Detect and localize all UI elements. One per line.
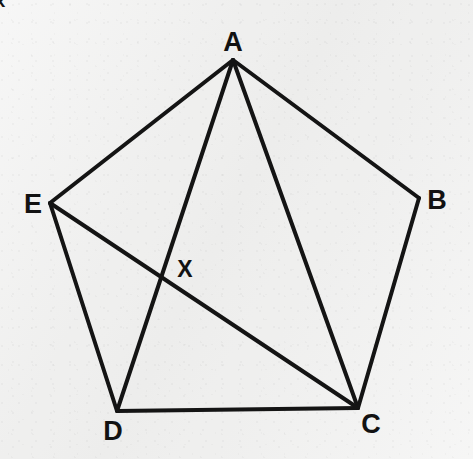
diagonal-EC <box>50 203 358 408</box>
geometry-figure: A B C D E X x <box>0 0 473 459</box>
segment-label-x: x <box>0 0 5 10</box>
vertex-label-D: D <box>103 418 123 445</box>
edge-DE <box>50 203 117 411</box>
diagonal-AC <box>233 60 358 408</box>
vertex-label-E: E <box>24 191 42 218</box>
vertex-label-C: C <box>361 411 381 438</box>
edge-EA <box>50 60 233 203</box>
vertex-label-B: B <box>427 187 447 214</box>
intersection-label-X: X <box>177 258 192 281</box>
diagonal-AD <box>117 60 233 411</box>
edge-CD <box>117 408 358 411</box>
edge-BC <box>358 198 419 408</box>
vertex-label-A: A <box>223 29 243 56</box>
edge-AB <box>233 60 419 198</box>
pentagon-diagram-svg <box>0 0 473 459</box>
